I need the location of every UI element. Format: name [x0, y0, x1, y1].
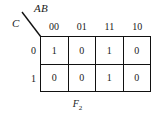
- kmap-row-1: 0 0 1 0: [41, 65, 150, 92]
- kmap-cell-r0c0: 1: [41, 37, 69, 64]
- column-header-row: 00 01 11 10: [40, 20, 151, 34]
- karnaugh-map-figure: AB C 00 01 11 10 0 1 1 0 1 0 0 0 1 0 F2: [0, 0, 155, 117]
- karnaugh-map-grid: 1 0 1 0 0 0 1 0: [40, 36, 151, 92]
- column-variables-label: AB: [34, 2, 48, 14]
- row-header-column: 0 1: [20, 36, 38, 92]
- row-header-0: 0: [20, 36, 38, 64]
- figure-caption-subscript: 2: [79, 104, 83, 112]
- kmap-row-0: 1 0 1 0: [41, 37, 150, 65]
- kmap-cell-r1c3: 0: [124, 65, 151, 92]
- kmap-cell-r1c2: 1: [96, 65, 124, 92]
- column-header-2: 11: [96, 20, 124, 34]
- kmap-cell-r1c0: 0: [41, 65, 69, 92]
- kmap-cell-r0c1: 0: [69, 37, 97, 64]
- row-header-1: 1: [20, 64, 38, 92]
- column-header-3: 10: [123, 20, 151, 34]
- kmap-cell-r0c2: 1: [96, 37, 124, 64]
- column-header-0: 00: [40, 20, 68, 34]
- column-header-1: 01: [68, 20, 96, 34]
- kmap-cell-r0c3: 0: [124, 37, 151, 64]
- row-variable-label: C: [12, 17, 19, 29]
- figure-caption: F2: [0, 98, 155, 112]
- kmap-cell-r1c1: 0: [69, 65, 97, 92]
